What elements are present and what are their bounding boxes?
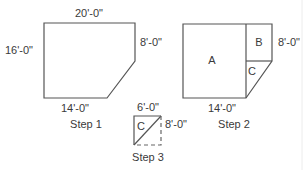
step2-region-b-label: B (255, 36, 262, 48)
step1-irregular-polygon (44, 23, 135, 98)
step3-region-c-label: C (137, 120, 145, 132)
step1-bottom-dimension: 14'-0" (61, 102, 89, 114)
step1-caption: Step 1 (70, 118, 102, 130)
step2-region-a-label: A (208, 54, 216, 66)
step3-top-dimension: 6'-0" (137, 101, 159, 113)
area-calculation-diagram: 20'-0" 16'-0" 8'-0" 14'-0" Step 1 A B C … (0, 0, 303, 170)
step1-right-dimension: 8'-0" (140, 36, 162, 48)
step3-right-dimension: 8'-0" (165, 118, 187, 130)
step2-figure: A B C 8'-0" 14'-0" Step 2 (183, 24, 300, 130)
step2-bottom-dimension: 14'-0" (208, 102, 236, 114)
step3-figure: C 6'-0" 8'-0" Step 3 (132, 101, 187, 163)
step2-right-dimension: 8'-0" (278, 36, 300, 48)
step2-caption: Step 2 (218, 118, 250, 130)
step1-left-dimension: 16'-0" (5, 44, 33, 56)
step3-caption: Step 3 (132, 151, 164, 163)
step2-region-c-label: C (248, 65, 256, 77)
step1-top-dimension: 20'-0" (75, 7, 103, 19)
